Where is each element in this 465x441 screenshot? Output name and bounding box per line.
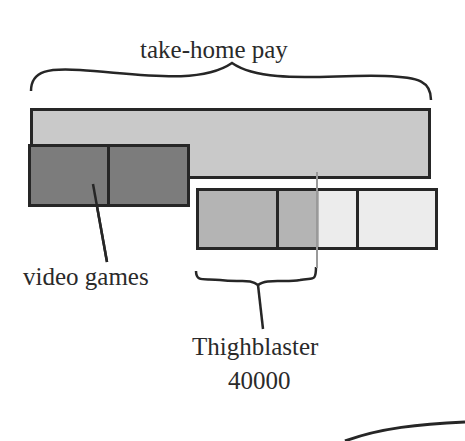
video-games-divider — [107, 145, 110, 206]
thighblaster-brace-icon — [196, 267, 316, 285]
thighblaster-divider-2 — [356, 190, 359, 249]
thighblaster-divider-1 — [276, 189, 279, 249]
take-home-brace-icon — [31, 63, 431, 100]
video-games-label: video games — [23, 263, 149, 291]
paid-marker-line — [316, 172, 318, 268]
thighblaster-label-line1: Thighblaster — [192, 333, 318, 361]
thighblaster-label-line2: 40000 — [228, 367, 291, 395]
swoop-line — [345, 422, 465, 441]
